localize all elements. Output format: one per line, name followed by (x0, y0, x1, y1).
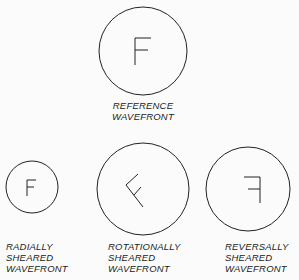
reference-f-icon (135, 38, 151, 65)
label-line: REFERENCE (111, 100, 175, 111)
label-line: REVERSALLY (225, 241, 288, 252)
radial-label: RADIALLY SHEARED WAVEFRONT (6, 241, 68, 274)
reference-label: REFERENCE WAVEFRONT (111, 100, 175, 122)
rotational-f-icon (126, 174, 143, 207)
diagram-canvas (0, 0, 299, 280)
reversal-label: REVERSALLY SHEARED WAVEFRONT (225, 241, 288, 274)
radial-f-icon (27, 180, 36, 196)
reversal-f-icon (244, 177, 260, 203)
rotational-label: ROTATIONALLY SHEARED WAVEFRONT (108, 241, 180, 274)
label-line: ROTATIONALLY (108, 241, 180, 252)
label-line: RADIALLY (6, 241, 68, 252)
label-line: WAVEFRONT (108, 263, 180, 274)
rotational-wavefront-circle (97, 143, 189, 235)
label-line: WAVEFRONT (225, 263, 288, 274)
label-line: WAVEFRONT (6, 263, 68, 274)
label-line: SHEARED (225, 252, 288, 263)
label-line: SHEARED (6, 252, 68, 263)
reference-wavefront-circle (99, 7, 187, 95)
label-line: SHEARED (108, 252, 180, 263)
label-line: WAVEFRONT (111, 111, 175, 122)
